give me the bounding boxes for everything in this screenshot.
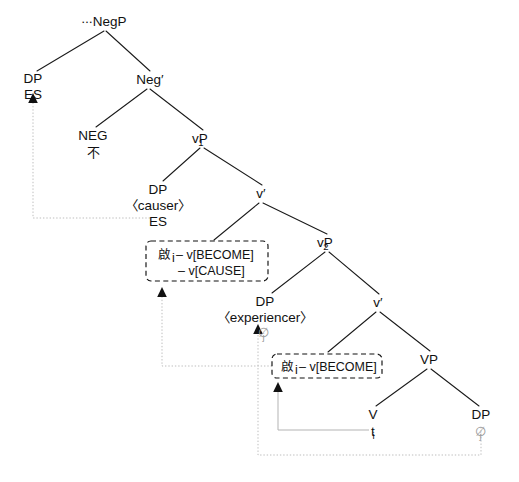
branch-negbar-neg xyxy=(96,89,147,127)
complex-head-upper-box: 啟 i – v[BECOME] – v[CAUSE] xyxy=(146,241,268,281)
node-dp-experiencer-subscript: j xyxy=(261,331,264,342)
branch-negp-negbar xyxy=(106,31,150,71)
branch-vp-v xyxy=(376,369,427,406)
movement-line-object-to-experiencer xyxy=(258,334,481,455)
node-dp-object-value: ∅ j xyxy=(475,425,486,441)
node-v-head: V xyxy=(368,407,377,422)
node-dp-object-label: DP xyxy=(472,407,491,422)
node-vp2-subscript: 2 xyxy=(323,241,328,252)
syntactic-tree-diagram: ∙∙∙NegP DP ES Neg′ NEG 不 vP 1 DP 〈causer… xyxy=(0,0,519,482)
branch-vp-dpobject xyxy=(431,369,479,406)
node-vp1: vP 1 xyxy=(192,131,208,148)
branch-vbar1-complexhead xyxy=(214,203,259,240)
movement-arrow-lowerhead xyxy=(273,382,283,392)
branch-vp2-vbar2 xyxy=(329,252,379,294)
node-dp-causer-label: DP xyxy=(149,182,168,197)
node-v-bar-2: v′ xyxy=(373,295,383,310)
movement-arrow-upperhead xyxy=(157,287,167,297)
complex-head-upper-cause: – v[CAUSE] xyxy=(178,264,245,278)
node-neg-bar: Neg′ xyxy=(136,72,164,87)
node-v-trace: t i xyxy=(371,424,375,441)
branch-vbar2-vp xyxy=(380,312,430,351)
node-vp: VP xyxy=(420,352,438,367)
node-dp-subject-label: DP xyxy=(24,71,43,86)
tree-canvas: ∙∙∙NegP DP ES Neg′ NEG 不 vP 1 DP 〈causer… xyxy=(0,0,519,482)
node-vp2: vP 2 xyxy=(317,235,333,252)
complex-head-lower-box: 啟 i – v[BECOME] xyxy=(272,354,382,378)
branch-vp1-dpcauser xyxy=(163,148,200,181)
branch-vbar1-vp2 xyxy=(263,203,327,234)
branch-vbar2-complexhead2 xyxy=(328,312,376,352)
node-vp1-subscript: 1 xyxy=(198,137,203,148)
branch-vp1-vbar1 xyxy=(204,148,262,185)
node-dp-experiencer-role: 〈experiencer〉 xyxy=(217,310,314,325)
complex-head-upper-cjk: 啟 xyxy=(158,247,171,262)
movement-line-trace-to-lowerhead xyxy=(278,392,369,430)
branch-negbar-vp1 xyxy=(150,89,203,130)
node-dp-subject-value: ES xyxy=(24,87,42,102)
complex-head-lower-cjk: 啟 xyxy=(281,359,294,374)
node-dp-experiencer-value: ∅ j xyxy=(258,326,269,342)
node-dp-causer-role: 〈causer〉 xyxy=(125,198,192,213)
node-neg-head: NEG xyxy=(78,128,107,143)
branch-vp2-dpexperiencer xyxy=(272,252,325,293)
node-dp-experiencer-label: DP xyxy=(256,294,275,309)
branch-negp-dp xyxy=(37,31,104,71)
node-trace-subscript: i xyxy=(372,430,374,441)
node-v-bar-1: v′ xyxy=(256,186,266,201)
node-dp-object-subscript: j xyxy=(478,430,481,441)
node-negp: ∙∙∙NegP xyxy=(81,14,126,29)
complex-head-upper-subscript: i xyxy=(172,251,175,265)
complex-head-lower-subscript: i xyxy=(295,363,298,377)
node-neg-head-word: 不 xyxy=(87,145,100,160)
complex-head-upper-become: – v[BECOME] xyxy=(176,248,254,262)
complex-head-lower-become: – v[BECOME] xyxy=(299,360,377,374)
node-dp-causer-value: ES xyxy=(149,214,167,229)
